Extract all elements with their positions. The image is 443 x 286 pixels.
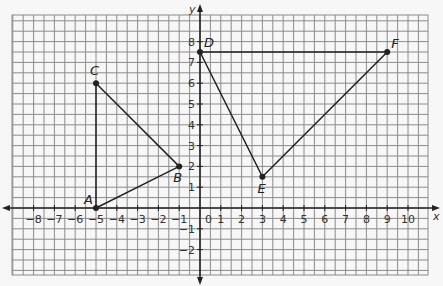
x-tick-label: 7 bbox=[342, 213, 349, 226]
point-f bbox=[384, 49, 390, 55]
y-axis-label: y bbox=[188, 3, 196, 16]
y-tick-label: 6 bbox=[188, 77, 195, 90]
x-tick-label: −4 bbox=[109, 213, 125, 226]
x-axis-label: x bbox=[432, 210, 440, 223]
y-axis-up-arrow-icon bbox=[197, 4, 203, 12]
point-label-e: E bbox=[257, 181, 266, 196]
point-label-c: C bbox=[90, 63, 100, 78]
origin-label: 0 bbox=[205, 213, 212, 226]
y-tick-label: −2 bbox=[179, 244, 195, 257]
point-label-f: F bbox=[391, 36, 399, 51]
y-tick-label: 8 bbox=[188, 36, 195, 49]
y-tick-label: −1 bbox=[179, 223, 195, 236]
x-tick-label: 1 bbox=[217, 213, 224, 226]
y-tick-label: 5 bbox=[188, 98, 195, 111]
x-tick-label: −2 bbox=[150, 213, 166, 226]
x-tick-label: −5 bbox=[88, 213, 104, 226]
y-tick-label: 3 bbox=[188, 140, 195, 153]
point-b bbox=[176, 163, 182, 169]
x-tick-label: 2 bbox=[238, 213, 245, 226]
grid-border bbox=[12, 15, 428, 275]
y-tick-label: 1 bbox=[188, 181, 195, 194]
point-d bbox=[197, 49, 203, 55]
x-tick-label: −3 bbox=[129, 213, 145, 226]
x-tick-label: 9 bbox=[384, 213, 391, 226]
point-a bbox=[93, 205, 99, 211]
coordinate-plane: xy−8−7−6−5−4−3−2−112345678910−2−11234567… bbox=[0, 0, 443, 286]
x-tick-label: 4 bbox=[280, 213, 287, 226]
y-tick-label: 4 bbox=[188, 119, 195, 132]
x-tick-label: 3 bbox=[259, 213, 266, 226]
plot-svg: xy−8−7−6−5−4−3−2−112345678910−2−11234567… bbox=[0, 0, 443, 286]
x-tick-label: 10 bbox=[401, 213, 415, 226]
x-tick-label: 5 bbox=[301, 213, 308, 226]
y-axis-down-arrow-icon bbox=[197, 277, 203, 285]
point-label-b: B bbox=[173, 170, 182, 185]
y-tick-label: 2 bbox=[188, 160, 195, 173]
x-tick-label: −6 bbox=[67, 213, 83, 226]
y-tick-label: 7 bbox=[188, 56, 195, 69]
point-label-d: D bbox=[204, 35, 214, 50]
x-axis-left-arrow-icon bbox=[2, 205, 10, 211]
x-tick-label: −8 bbox=[25, 213, 41, 226]
point-label-a: A bbox=[83, 192, 93, 207]
point-c bbox=[93, 80, 99, 86]
x-tick-label: 8 bbox=[363, 213, 370, 226]
x-tick-label: −7 bbox=[46, 213, 62, 226]
point-e bbox=[259, 174, 265, 180]
x-tick-label: 6 bbox=[321, 213, 328, 226]
